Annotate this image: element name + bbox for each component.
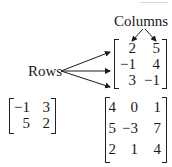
matrix-cell: 4 [138, 142, 161, 163]
matrix-cell: 4 [136, 57, 160, 73]
matrix-cell: 5 [136, 41, 160, 57]
row-arrows [61, 52, 110, 87]
matrix-cell: 0 [116, 100, 138, 121]
annotated-matrix: 2 5 −1 4 3 −1 [114, 39, 167, 89]
matrix-cell: 1 [138, 100, 161, 121]
matrix-cell: 3 [114, 73, 136, 89]
matrix-cell: 7 [138, 121, 161, 142]
matrix-cell: 2 [105, 142, 116, 163]
rows-label: Rows [28, 64, 62, 79]
matrix-cell: −1 [9, 100, 30, 116]
matrix-cell: 5 [9, 116, 30, 132]
two-by-two-matrix: −1 3 5 2 [9, 98, 56, 134]
matrix-cell: 3 [30, 100, 50, 116]
matrix-cell: 2 [30, 116, 50, 132]
matrix-cell: 4 [105, 100, 116, 121]
columns-label: Columns [114, 14, 168, 29]
three-by-three-matrix: 4 0 1 5 −3 7 2 1 4 [105, 97, 167, 163]
matrix-cell: 1 [116, 142, 138, 163]
matrix-cell: −1 [114, 57, 136, 73]
matrix-cell: 2 [114, 41, 136, 57]
matrix-cell: 5 [105, 121, 116, 142]
matrix-cell: −3 [116, 121, 138, 142]
matrix-cell: −1 [136, 73, 160, 89]
